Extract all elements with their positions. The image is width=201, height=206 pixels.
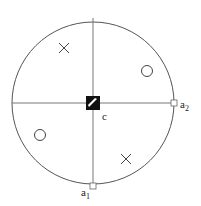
- a2-anchor-box: [171, 100, 177, 106]
- center-node: [86, 96, 100, 110]
- cross-marker-top-left: [59, 43, 69, 53]
- quadrant-diagram: c a2 a1: [0, 0, 201, 206]
- cross-marker-bottom-right: [121, 154, 131, 164]
- circle-marker-top-right: [142, 66, 153, 77]
- circle-marker-bottom-left: [35, 130, 46, 141]
- a1-label: a1: [81, 186, 90, 201]
- center-label: c: [102, 110, 107, 122]
- a1-anchor-box: [90, 183, 96, 189]
- a2-label: a2: [180, 98, 189, 113]
